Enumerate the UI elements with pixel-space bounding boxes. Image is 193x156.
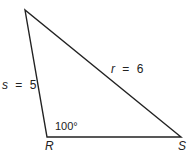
side-r-label: r = 6	[111, 62, 144, 76]
side-r-value: 6	[137, 62, 144, 76]
angle-r-label: 100°	[55, 120, 78, 132]
side-r-eq: =	[122, 62, 129, 76]
triangle	[25, 10, 181, 137]
side-s-name: s	[2, 78, 8, 92]
triangle-diagram: s = 5 r = 6 100° R S	[0, 0, 193, 156]
side-r-name: r	[111, 62, 116, 76]
side-s-value: 5	[30, 78, 37, 92]
side-s-label: s = 5	[2, 78, 37, 92]
vertex-s-label: S	[178, 139, 186, 153]
vertex-r-label: R	[45, 139, 54, 153]
side-s-eq: =	[15, 78, 22, 92]
